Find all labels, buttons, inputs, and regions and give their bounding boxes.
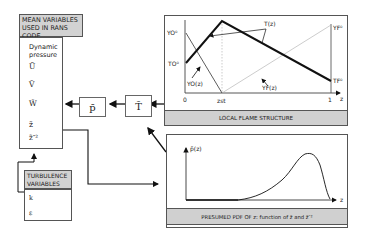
label-t-of-z: T(z) — [264, 20, 276, 28]
p-bar-operator: p̄ — [79, 97, 106, 117]
mean-variables-title-line1: MEAN VARIABLES — [22, 16, 80, 24]
x-axis-label-z: z — [340, 95, 343, 103]
mean-variables-header: MEAN VARIABLES USED IN RANS CODE — [19, 14, 83, 37]
mean-variables-box: Dynamic pressure Ũ Ṽ W̃ z̃ z̃″² — [19, 37, 63, 149]
label-to0: TO⁰ — [168, 60, 179, 68]
label-yf0: YF⁰ — [333, 24, 343, 32]
tick-zst: zst — [217, 97, 226, 105]
presumed-pdf-title: PRESUMED PDF OF z: function of z̃ and z̃… — [166, 208, 348, 225]
var-dynamic: Dynamic — [29, 43, 58, 51]
var-z-variance: z̃″² — [29, 134, 38, 142]
tick-0: 0 — [183, 96, 187, 104]
var-k: k — [29, 194, 33, 202]
pdf-x-label: z — [340, 196, 343, 204]
t-tilde-operator: T̃ — [125, 95, 152, 117]
turbulence-title-line1: TURBULENCE — [27, 172, 69, 180]
label-tf0: TF⁰ — [333, 77, 343, 85]
var-w-tilde: W̃ — [29, 100, 37, 108]
turbulence-header: TURBULENCE VARIABLES — [24, 170, 72, 189]
label-yo-of-z: YO(z) — [187, 80, 203, 88]
var-epsilon: ε — [29, 209, 32, 217]
local-flame-structure-title: LOCAL FLAME STRUCTURE — [164, 110, 348, 126]
tick-1: 1 — [328, 96, 332, 104]
var-u-tilde: Ũ — [29, 63, 35, 71]
var-pressure: pressure — [29, 51, 57, 59]
turbulence-title-line2: VARIABLES — [27, 180, 69, 188]
var-z-tilde: z̃ — [29, 121, 33, 129]
turbulence-box: k ε — [24, 189, 72, 221]
label-yf-of-z: YF(z) — [262, 84, 277, 92]
label-yo0: YO⁰ — [167, 29, 177, 37]
pdf-y-label: p̃(z) — [190, 145, 202, 153]
var-v-tilde: Ṽ — [29, 81, 34, 89]
